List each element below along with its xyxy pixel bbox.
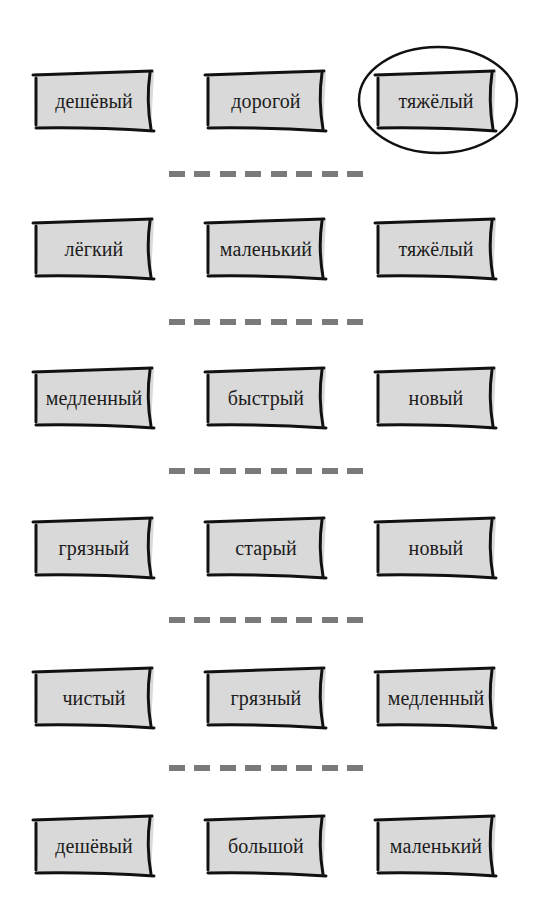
dash-segment	[322, 765, 338, 771]
word-label: новый	[374, 367, 498, 429]
dash-segment	[347, 319, 363, 325]
word-card-r6-c1[interactable]: дешёвый	[32, 815, 156, 877]
word-row-3: медленный быстрый новый	[0, 363, 542, 433]
word-label: дорогой	[204, 70, 328, 132]
dash-segment	[245, 617, 261, 623]
word-label: чистый	[32, 667, 156, 729]
dash-segment	[296, 319, 312, 325]
word-label: тяжёлый	[374, 218, 498, 280]
dash-segment	[220, 617, 236, 623]
separator-dashes	[169, 468, 363, 474]
dash-segment	[169, 617, 185, 623]
word-label: грязный	[204, 667, 328, 729]
dash-segment	[296, 765, 312, 771]
separator-dashes	[169, 765, 363, 771]
word-card-r2-c2[interactable]: маленький	[204, 218, 328, 280]
word-row-2: лёгкий маленький тяжёлый	[0, 214, 542, 284]
dash-segment	[245, 765, 261, 771]
dash-segment	[194, 765, 210, 771]
dash-segment	[322, 171, 338, 177]
dash-segment	[194, 468, 210, 474]
word-card-r4-c2[interactable]: старый	[204, 517, 328, 579]
dash-segment	[347, 617, 363, 623]
word-row-5: чистый грязный медленный	[0, 663, 542, 733]
word-card-r5-c2[interactable]: грязный	[204, 667, 328, 729]
dash-segment	[169, 319, 185, 325]
dash-segment	[296, 468, 312, 474]
word-label: дешёвый	[32, 815, 156, 877]
dash-segment	[220, 765, 236, 771]
dash-segment	[322, 319, 338, 325]
word-card-r3-c2[interactable]: быстрый	[204, 367, 328, 429]
dash-segment	[271, 171, 287, 177]
separator-dashes	[169, 171, 363, 177]
word-label: медленный	[374, 667, 498, 729]
dash-segment	[194, 617, 210, 623]
word-card-r4-c3[interactable]: новый	[374, 517, 498, 579]
word-card-r6-c2[interactable]: большой	[204, 815, 328, 877]
dash-segment	[322, 468, 338, 474]
dash-segment	[271, 319, 287, 325]
word-card-r5-c3[interactable]: медленный	[374, 667, 498, 729]
dash-segment	[347, 765, 363, 771]
dash-segment	[220, 171, 236, 177]
dash-segment	[271, 765, 287, 771]
word-label: большой	[204, 815, 328, 877]
word-label: новый	[374, 517, 498, 579]
dash-segment	[245, 468, 261, 474]
word-row-4: грязный старый новый	[0, 513, 542, 583]
word-card-r5-c1[interactable]: чистый	[32, 667, 156, 729]
word-label: грязный	[32, 517, 156, 579]
dash-segment	[271, 468, 287, 474]
word-label: медленный	[32, 367, 156, 429]
word-card-r1-c1[interactable]: дешёвый	[32, 70, 156, 132]
word-label: дешёвый	[32, 70, 156, 132]
dash-segment	[322, 617, 338, 623]
word-label: старый	[204, 517, 328, 579]
word-card-r3-c3[interactable]: новый	[374, 367, 498, 429]
dash-segment	[194, 171, 210, 177]
word-label: тяжёлый	[374, 70, 498, 132]
dash-segment	[169, 765, 185, 771]
word-card-r1-c3[interactable]: тяжёлый	[374, 70, 498, 132]
word-label: быстрый	[204, 367, 328, 429]
dash-segment	[194, 319, 210, 325]
dash-segment	[296, 617, 312, 623]
word-card-r1-c2[interactable]: дорогой	[204, 70, 328, 132]
dash-segment	[245, 171, 261, 177]
dash-segment	[245, 319, 261, 325]
separator-dashes	[169, 319, 363, 325]
word-label: маленький	[204, 218, 328, 280]
word-row-6: дешёвый большой маленький	[0, 811, 542, 881]
word-card-r6-c3[interactable]: маленький	[374, 815, 498, 877]
word-label: лёгкий	[32, 218, 156, 280]
separator-dashes	[169, 617, 363, 623]
word-card-r2-c3[interactable]: тяжёлый	[374, 218, 498, 280]
dash-segment	[296, 171, 312, 177]
dash-segment	[347, 468, 363, 474]
word-label: маленький	[374, 815, 498, 877]
dash-segment	[169, 171, 185, 177]
dash-segment	[271, 617, 287, 623]
word-card-r3-c1[interactable]: медленный	[32, 367, 156, 429]
dash-segment	[220, 319, 236, 325]
word-card-r2-c1[interactable]: лёгкий	[32, 218, 156, 280]
word-row-1: дешёвый дорогой тяжёлый	[0, 66, 542, 136]
dash-segment	[220, 468, 236, 474]
word-card-r4-c1[interactable]: грязный	[32, 517, 156, 579]
dash-segment	[347, 171, 363, 177]
dash-segment	[169, 468, 185, 474]
